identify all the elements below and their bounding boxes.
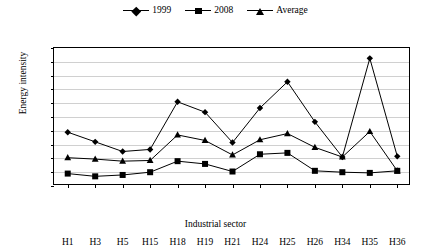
diamond-marker-icon <box>123 7 149 15</box>
triangle-marker-icon <box>311 144 318 150</box>
x-axis-tick-label: H1 <box>62 238 74 248</box>
triangle-marker-icon <box>284 130 291 136</box>
chart-legend: 1999 2008 Average <box>0 6 431 16</box>
triangle-marker-icon <box>64 154 71 160</box>
triangle-marker-icon <box>247 7 273 15</box>
x-axis-tick-label: H18 <box>169 238 185 248</box>
square-marker-icon <box>257 151 263 157</box>
square-marker-icon <box>230 169 236 175</box>
y-axis-title: Energy intensity <box>18 28 28 138</box>
square-marker-icon <box>175 158 181 164</box>
x-axis-tick-label: H24 <box>252 238 268 248</box>
diamond-marker-icon <box>147 146 153 152</box>
x-axis-tick-label: H21 <box>224 238 240 248</box>
square-marker-icon <box>147 169 153 175</box>
diamond-marker-icon <box>174 99 180 105</box>
legend-item-average: Average <box>247 6 307 16</box>
square-marker-icon <box>92 173 98 179</box>
x-axis-title: Industrial sector <box>0 219 431 229</box>
diamond-marker-icon <box>367 55 373 61</box>
x-axis-tick-label: H19 <box>197 238 213 248</box>
square-marker-icon <box>339 169 345 175</box>
x-axis-tick-label: H15 <box>142 238 158 248</box>
triangle-marker-icon <box>366 128 373 134</box>
square-marker-icon <box>185 7 211 15</box>
x-axis-tick-label: H35 <box>362 238 378 248</box>
square-marker-icon <box>202 161 208 167</box>
diamond-marker-icon <box>92 139 98 145</box>
triangle-marker-icon <box>174 131 181 137</box>
square-marker-icon <box>312 168 318 174</box>
series-Average <box>64 128 400 174</box>
legend-label: 2008 <box>214 6 233 16</box>
triangle-marker-icon <box>229 151 236 157</box>
x-axis-tick-label: H3 <box>89 238 101 248</box>
series-1999 <box>65 55 401 160</box>
x-axis-tick-label: H36 <box>389 238 405 248</box>
legend-label: Average <box>276 6 307 16</box>
y-axis-tick <box>51 186 55 187</box>
diamond-marker-icon <box>394 153 400 159</box>
legend-label: 1999 <box>152 6 171 16</box>
x-axis-tick-label: H5 <box>117 238 129 248</box>
diamond-marker-icon <box>119 148 125 154</box>
legend-item-1999: 1999 <box>123 6 171 16</box>
legend-item-2008: 2008 <box>185 6 233 16</box>
square-marker-icon <box>120 172 126 178</box>
diamond-marker-icon <box>65 129 71 135</box>
square-marker-icon <box>65 171 71 177</box>
x-axis-tick-label: H26 <box>307 238 323 248</box>
x-axis-tick-label: H34 <box>334 238 350 248</box>
plot-area: 02468101214161820H1H3H5H15H18H19H21H24H2… <box>53 47 410 185</box>
x-axis-tick-label: H25 <box>279 238 295 248</box>
square-marker-icon <box>367 170 373 176</box>
series-layer <box>54 48 411 186</box>
square-marker-icon <box>284 150 290 156</box>
